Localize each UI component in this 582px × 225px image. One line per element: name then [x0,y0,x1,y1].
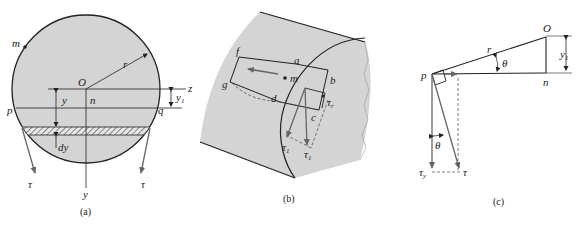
label-dy: dy [58,141,69,153]
figure-b: f g a m b d c τr τ1 τ1 (b) [200,12,370,205]
label-m-b: m [290,72,298,84]
caption-a: (a) [80,206,91,218]
caption-b: (b) [283,193,295,205]
label-theta-top: θ [502,57,508,69]
label-O-c: O [543,22,551,34]
hatched-strip [10,127,160,135]
label-O: O [78,76,86,88]
label-tau-right: τ [141,178,146,190]
label-n: n [90,94,96,106]
label-y1: y1 [175,91,184,105]
label-y: y [61,94,67,106]
label-y-axis: y [82,188,88,200]
shear-stress-diagram: m O r z y1 y n p q dy τ τ y (a) [0,0,582,225]
label-tau-left: τ [28,178,33,190]
label-a: a [294,54,300,66]
label-tau-y: τy [419,166,427,180]
figure-c: O r θ y1 p n θ τy τ (c) [419,22,572,208]
label-n-c: n [543,76,549,88]
caption-c: (c) [493,196,504,208]
label-c: c [311,111,316,123]
label-r: r [123,58,128,70]
label-r-c: r [487,43,492,55]
label-p-c: p [420,69,427,81]
label-m: m [12,37,20,49]
label-z: z [187,82,193,94]
label-tau-c: τ [463,166,468,178]
label-y1-c: y1 [559,48,568,62]
tau-arrow [432,74,459,168]
label-p: p [6,104,13,116]
figure-a: m O r z y1 y n p q dy τ τ y (a) [6,15,193,218]
label-b: b [330,74,336,86]
label-theta-bottom: θ [435,139,441,151]
label-q: q [158,104,164,116]
label-d: d [271,92,277,104]
label-g: g [222,78,228,90]
